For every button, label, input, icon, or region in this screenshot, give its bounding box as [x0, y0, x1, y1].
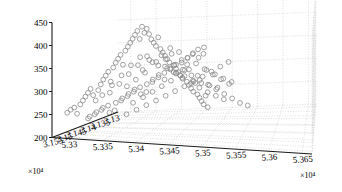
data-point: [138, 85, 143, 90]
data-point: [202, 45, 207, 50]
data-point: [131, 100, 136, 105]
data-point: [151, 40, 156, 45]
data-point: [177, 50, 182, 55]
data-point: [126, 72, 131, 77]
data-point: [137, 37, 142, 42]
data-point: [98, 82, 103, 87]
axis-spines: [52, 23, 312, 155]
svg-text:5.345: 5.345: [159, 145, 180, 156]
data-point: [168, 46, 173, 51]
data-point: [117, 82, 122, 87]
data-point: [106, 69, 111, 74]
svg-text:400: 400: [34, 41, 48, 51]
data-point: [162, 70, 167, 75]
data-point: [196, 55, 201, 60]
svg-text:5.34: 5.34: [128, 143, 145, 154]
data-point: [195, 73, 200, 78]
y-axis-exponent-label: ×10⁴: [28, 167, 44, 176]
data-point: [96, 88, 101, 93]
data-point: [197, 85, 202, 90]
data-point: [121, 62, 126, 67]
data-point: [107, 90, 112, 95]
data-point: [113, 100, 118, 105]
data-point: [124, 112, 129, 117]
data-point: [145, 54, 150, 59]
data-point: [199, 81, 204, 86]
svg-text:250: 250: [34, 110, 48, 120]
data-point: [205, 105, 210, 110]
data-point: [201, 51, 206, 56]
data-point: [218, 64, 223, 69]
data-point: [106, 103, 111, 108]
svg-text:300: 300: [34, 87, 48, 97]
data-point: [222, 92, 227, 97]
data-point: [238, 101, 243, 106]
svg-text:450: 450: [34, 18, 48, 28]
data-point: [169, 78, 174, 83]
data-point: [144, 82, 149, 87]
data-point: [185, 55, 190, 60]
data-point: [100, 93, 105, 98]
data-point: [147, 32, 152, 37]
data-point: [185, 62, 190, 67]
data-point: [169, 51, 174, 56]
data-point: [75, 111, 80, 116]
svg-text:5.36: 5.36: [261, 152, 278, 163]
scatter3d-chart: 200250300350400450 3.1553.153.1453.143.1…: [0, 0, 342, 192]
data-point: [221, 97, 226, 102]
data-point: [118, 52, 123, 57]
data-point: [144, 103, 149, 108]
data-point: [196, 47, 201, 52]
x-axis-tick-labels: 5.335.3355.345.3455.355.3555.365.365: [61, 139, 313, 165]
data-point: [209, 69, 214, 74]
data-point: [135, 29, 140, 34]
data-point: [226, 60, 231, 65]
svg-text:5.355: 5.355: [226, 149, 247, 160]
data-point: [119, 73, 124, 78]
data-point: [173, 89, 178, 94]
data-point: [133, 77, 138, 82]
data-point: [149, 37, 154, 42]
x-axis-exponent-label: ×10⁴: [300, 171, 316, 180]
data-point: [111, 65, 116, 70]
data-point: [93, 98, 98, 103]
data-point: [88, 87, 93, 92]
svg-text:5.335: 5.335: [92, 141, 113, 152]
data-point: [194, 61, 199, 66]
right-wall-gridlines: [312, 0, 316, 154]
data-point: [91, 93, 96, 98]
svg-text:5.365: 5.365: [292, 154, 313, 165]
data-point: [150, 89, 155, 94]
z-axis-tick-labels: 200250300350400450: [34, 18, 48, 143]
svg-text:5.33: 5.33: [61, 139, 78, 150]
data-point: [163, 93, 168, 98]
data-point: [156, 63, 161, 68]
left-wall-gridlines: [118, 0, 316, 112]
data-point: [156, 35, 161, 40]
svg-text:350: 350: [34, 64, 48, 74]
data-point: [159, 84, 164, 89]
data-point: [158, 47, 163, 52]
data-point: [213, 93, 218, 98]
svg-text:5.35: 5.35: [195, 147, 212, 158]
data-point: [138, 55, 143, 60]
data-point: [125, 84, 130, 89]
data-point: [245, 103, 250, 108]
data-point: [144, 90, 149, 95]
data-point: [189, 73, 194, 78]
data-point: [162, 77, 167, 82]
svg-text:3.13: 3.13: [103, 113, 121, 126]
data-point: [140, 24, 145, 29]
data-point: [144, 26, 149, 31]
